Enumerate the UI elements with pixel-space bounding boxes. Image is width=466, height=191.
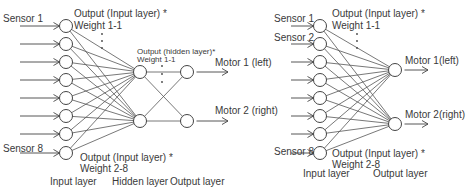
output-node [389,118,402,131]
input-node [60,92,73,105]
output-arrow-icon [197,118,229,125]
input-node [314,92,327,105]
output-layer-label: Output layer [373,168,428,179]
input-node [60,56,73,69]
input-arrow-icon [291,77,314,84]
input-arrow-icon [291,131,314,138]
neural-network-diagrams: Sensor 1 Sensor 8 Output (Input layer) *… [0,0,466,191]
input-node [60,38,73,51]
input-node [314,147,327,160]
ellipsis-dot [161,65,163,67]
input-arrow-icon [291,59,314,66]
input-node [60,20,73,33]
output-arrow-icon [197,69,229,76]
connection-edges [320,26,395,153]
input-node [314,56,327,69]
diagram-canvas: Sensor 1 Sensor 8 Output (Input layer) *… [0,0,466,191]
hidden-layer-label: Hidden layer [112,176,169,187]
motor-2-label: Motor 2 (right) [215,105,278,116]
bottom-annotation-line2: Weight 2-8 [80,163,129,174]
motor-1-label: Motor 1 (left) [215,57,272,68]
output-node [181,115,194,128]
ellipsis-dot [161,73,163,75]
weight-edge [320,70,395,98]
hidden-node [134,66,147,79]
top-annotation-line1: Output (Input layer) * [332,8,425,19]
input-layer-label: Input layer [303,168,350,179]
ellipsis-dot [356,33,358,35]
output-arrow-icon [405,67,429,74]
input-node [60,147,73,160]
input-arrow-icon [20,41,60,48]
input-node [314,38,327,51]
sensor-1-label: Sensor 1 [274,13,314,24]
input-node [60,74,73,87]
input-node [314,128,327,141]
input-arrow-icon [291,113,314,120]
input-arrow-icon [291,95,314,102]
output-layer-label: Output layer [170,176,225,187]
sensor-8-label: Sensor 8 [274,146,314,157]
output-arrow-icon [405,121,429,128]
weight-edge [66,121,140,153]
motor-2-label: Motor 2(right) [405,109,465,120]
hidden-annotation-line2: Weight 1-1 [137,55,176,64]
input-node [314,110,327,123]
weight-edge [66,44,140,72]
input-node [60,128,73,141]
input-node [314,20,327,33]
ellipsis-dot [101,40,103,42]
bottom-annotation-line1: Output (Input layer) * [80,152,173,163]
hidden-node [134,115,147,128]
ellipsis-dot [161,81,163,83]
input-arrow-icon [20,95,60,102]
top-annotation-line1: Output (Input layer) * [74,8,167,19]
sensor-8-label: Sensor 8 [3,143,43,154]
input-node [60,110,73,123]
input-arrow-icon [20,113,60,120]
weight-edge [66,80,140,121]
weight-edge [66,121,140,134]
ellipsis-dot [101,33,103,35]
weight-edge [66,72,140,134]
weight-edge [66,26,140,72]
output-node [181,66,194,79]
input-node [314,74,327,87]
sensor-2-label: Sensor 2 [274,32,314,43]
top-annotation-line2: Weight 1-1 [332,20,381,31]
diagram-with-hidden-layer: Sensor 1 Sensor 8 Output (Input layer) *… [3,8,278,187]
input-arrow-icon [20,77,60,84]
input-arrow-icon [20,131,60,138]
sensor-1-label: Sensor 1 [3,13,43,24]
ellipsis-dot [356,47,358,49]
output-node [389,64,402,77]
weight-edge [66,116,140,121]
diagram-without-hidden-layer: Sensor 1 Sensor 2 Sensor 8 Output (Input… [274,8,465,179]
weight-edge [320,124,395,134]
ellipsis-dot [101,47,103,49]
input-arrow-icon [20,59,60,66]
connection-edges [66,26,187,153]
ellipsis-dot [356,40,358,42]
top-annotation-line2: Weight 1-1 [74,20,123,31]
bottom-annotation-line1: Output (Input layer) * [332,148,425,159]
motor-1-label: Motor 1(left) [405,55,459,66]
input-layer-label: Input layer [50,176,97,187]
